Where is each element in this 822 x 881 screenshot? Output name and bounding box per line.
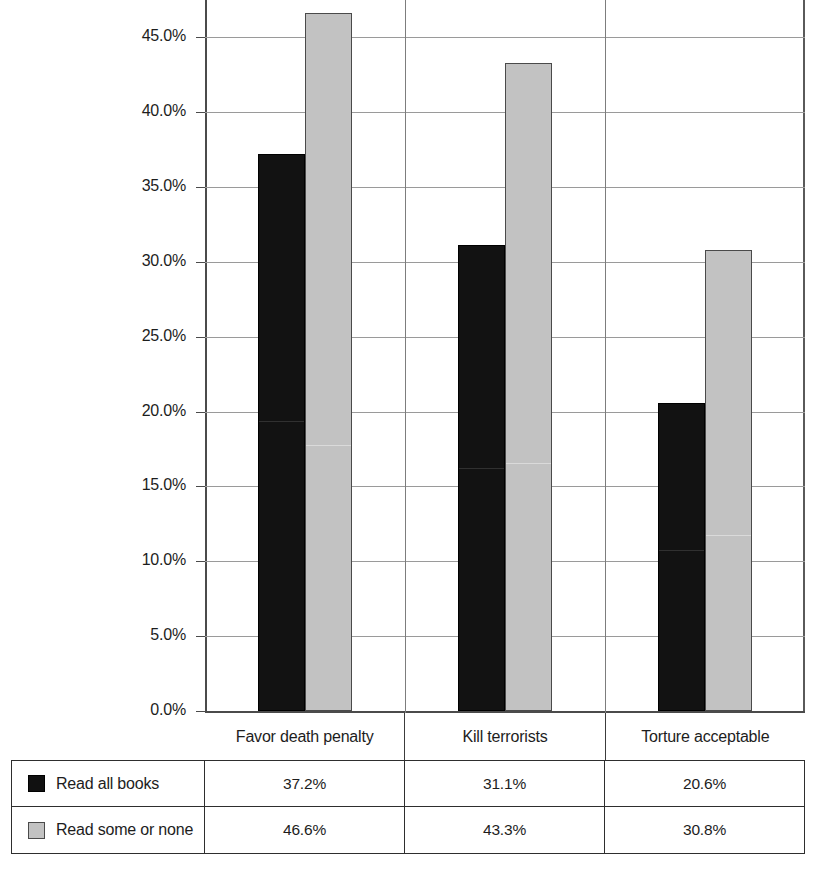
- table-cell-value: 20.6%: [605, 761, 804, 806]
- y-axis-tick-label: 10.0%: [142, 551, 186, 569]
- y-axis-tick: [196, 412, 205, 413]
- y-axis-tick-label: 0.0%: [150, 701, 186, 719]
- bar-read-some-or-none: [505, 63, 552, 711]
- y-axis-tick: [196, 262, 205, 263]
- y-axis-tick: [196, 337, 205, 338]
- y-axis-tick-label: 40.0%: [142, 102, 186, 120]
- bar-chart-figure: 0.0%5.0%10.0%15.0%20.0%25.0%30.0%35.0%40…: [0, 0, 822, 881]
- y-axis-tick: [196, 112, 205, 113]
- y-axis-tick: [196, 486, 205, 487]
- y-axis-tick-label: 20.0%: [142, 402, 186, 420]
- light-square-swatch-icon: [28, 822, 45, 839]
- gridline: [205, 37, 805, 38]
- legend-label: Read some or none: [56, 821, 193, 839]
- dark-square-swatch-icon: [28, 775, 45, 792]
- category-label: Favor death penalty: [205, 713, 405, 760]
- y-axis-tick-label: 45.0%: [142, 27, 186, 45]
- plot-right-edge: [803, 0, 805, 713]
- table-cell-value: 31.1%: [405, 761, 605, 806]
- category-label: Kill terrorists: [405, 713, 605, 760]
- y-axis-tick-label: 5.0%: [150, 626, 186, 644]
- table-cell-value: 37.2%: [205, 761, 405, 806]
- table-cell-value: 46.6%: [205, 807, 405, 853]
- category-separator: [605, 0, 606, 713]
- category-separator: [405, 0, 406, 713]
- y-axis-tick: [196, 636, 205, 637]
- y-axis-tick: [196, 711, 205, 712]
- y-axis-tick: [196, 187, 205, 188]
- bar-read-some-or-none: [705, 250, 752, 711]
- table-row: Read some or none 46.6% 43.3% 30.8%: [12, 807, 804, 853]
- y-axis-tick-label: 15.0%: [142, 476, 186, 494]
- bar-read-all-books: [458, 245, 505, 711]
- y-axis-tick-label: 35.0%: [142, 177, 186, 195]
- bar-read-some-or-none: [305, 13, 352, 711]
- y-axis-tick: [196, 37, 205, 38]
- bar-read-all-books: [658, 403, 705, 711]
- category-label-row: Favor death penaltyKill terroristsTortur…: [205, 713, 805, 760]
- bar-read-all-books: [258, 154, 305, 711]
- plot-area: [205, 0, 805, 713]
- y-axis-line: [205, 0, 207, 713]
- table-row: Read all books 37.2% 31.1% 20.6%: [12, 761, 804, 807]
- table-cell-value: 30.8%: [605, 807, 804, 853]
- data-table: Read all books 37.2% 31.1% 20.6% Read so…: [11, 760, 805, 854]
- y-axis-tick: [196, 561, 205, 562]
- legend-label: Read all books: [56, 775, 159, 793]
- category-label: Torture acceptable: [606, 713, 805, 760]
- legend-item-read-all-books[interactable]: Read all books: [12, 761, 205, 806]
- y-axis-tick-label: 25.0%: [142, 327, 186, 345]
- y-axis: 0.0%5.0%10.0%15.0%20.0%25.0%30.0%35.0%40…: [0, 0, 186, 713]
- legend-item-read-some-or-none[interactable]: Read some or none: [12, 807, 205, 853]
- y-axis-tick-label: 30.0%: [142, 252, 186, 270]
- table-cell-value: 43.3%: [405, 807, 605, 853]
